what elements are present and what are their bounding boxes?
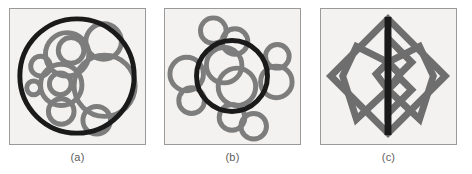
panel-a [9,8,146,145]
panel-b [164,8,301,145]
caption-b: (b) [164,150,301,164]
panel-c-graphic [321,9,456,144]
caption-a: (a) [9,150,146,164]
panel-a-circle-9 [27,81,41,95]
panel-b-satellite-7 [241,113,267,139]
caption-c: (c) [320,150,457,164]
panel-b-circle-0 [206,47,241,82]
figure-container: (a) (b) (c) [0,0,472,174]
panel-a-graphic [10,9,145,144]
panel-a-circle-3 [58,38,84,64]
panel-c [320,8,457,145]
panel-b-graphic [165,9,300,144]
panel-a-circle-7 [48,99,74,125]
panel-b-satellite-circles [170,18,292,139]
